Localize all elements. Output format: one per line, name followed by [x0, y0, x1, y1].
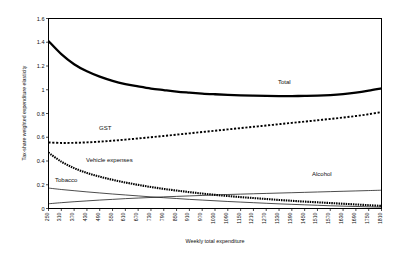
series-line-tobacco: [49, 188, 382, 207]
x-tick-label: 1630: [338, 212, 344, 224]
x-tick-label: 550: [108, 212, 114, 221]
x-tick-label: 1090: [223, 212, 229, 224]
x-tick-label: 1030: [210, 212, 216, 224]
x-tick-label: 1750: [364, 212, 370, 224]
x-tick-label: 1690: [351, 212, 357, 224]
y-tick-label: 0: [41, 206, 44, 212]
x-axis-tick-labels: 2503103704304905506106707307908509109701…: [44, 212, 383, 224]
x-tick-label: 1210: [248, 212, 254, 224]
annotation-vehicle-expenses: Vehicle expenses: [86, 157, 133, 163]
x-tick-label: 1330: [274, 212, 280, 224]
x-tick-label: 430: [82, 212, 88, 221]
x-tick-label: 1270: [261, 212, 267, 224]
y-tick-label: 0.2: [37, 182, 45, 188]
annotation-tobacco: Tobacco: [55, 177, 78, 183]
x-tick-label: 1450: [300, 212, 306, 224]
series-line-total: [49, 41, 382, 96]
x-tick-label: 1150: [236, 212, 242, 223]
annotation-alcohol: Alcohol: [312, 171, 332, 177]
x-tick-label: 490: [95, 212, 101, 221]
y-tick-label: 1.6: [37, 16, 45, 22]
x-tick-label: 970: [197, 212, 203, 221]
x-tick-label: 610: [120, 212, 126, 221]
y-axis-tick-labels: 00.20.40.60.811.21.41.6: [37, 16, 45, 212]
x-tick-label: 670: [133, 212, 139, 221]
x-tick-label: 730: [146, 212, 152, 221]
x-tick-label: 1810: [377, 212, 383, 224]
x-axis-title: Weekly total expenditure: [186, 238, 245, 244]
plot-frame: [49, 19, 382, 209]
y-tick-label: 1.2: [37, 63, 45, 69]
x-tick-label: 1390: [287, 212, 293, 224]
annotation-gst: GST: [99, 125, 112, 131]
x-tick-label: 250: [44, 212, 50, 221]
x-tick-label: 310: [56, 212, 62, 221]
y-tick-label: 1: [41, 87, 44, 93]
x-tick-label: 1570: [325, 212, 331, 224]
y-tick-label: 0.8: [37, 111, 45, 117]
y-tick-label: 1.4: [37, 39, 45, 45]
x-tick-label: 910: [184, 212, 190, 221]
y-tick-label: 0.6: [37, 134, 45, 140]
x-tick-label: 370: [69, 212, 75, 221]
chart-canvas: 00.20.40.60.811.21.41.6 2503103704304905…: [0, 0, 402, 255]
series-annotation-labels: TotalGSTVehicle expensesTobaccoAlcohol: [55, 79, 332, 183]
y-axis-title: Tax-share weighted expenditure elasticit…: [21, 65, 27, 160]
y-tick-label: 0.4: [37, 158, 45, 164]
chart-figure: 00.20.40.60.811.21.41.6 2503103704304905…: [0, 0, 402, 255]
x-tick-label: 1510: [312, 212, 318, 224]
x-tick-label: 850: [172, 212, 178, 221]
annotation-total: Total: [278, 79, 291, 85]
x-tick-label: 790: [159, 212, 165, 221]
series-line-alcohol: [49, 190, 382, 204]
